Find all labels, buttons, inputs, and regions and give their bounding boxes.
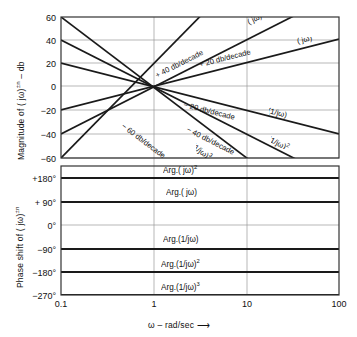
phase-label-arg-inv-jw1: Arg.(1/jω)	[163, 235, 259, 244]
phase-tick-0: 0°	[47, 221, 56, 231]
phase-axis-title: Phase shift of ( jω)±n	[14, 207, 25, 288]
curve-label-inv-jw1: (1/jω)	[269, 106, 323, 122]
x-tick-10: 10	[242, 299, 252, 309]
mag-tick-60: 60	[46, 13, 56, 23]
curve-label-inv-jw2: (1/jω)2	[271, 133, 324, 149]
phase-tick-180: +180°	[32, 174, 56, 184]
curve-label-jw1: ( jω)	[296, 37, 352, 46]
phase-tick-90: + 90°	[35, 198, 57, 208]
x-tick-0-1: 0.1	[55, 299, 68, 309]
mag-tick-0: 0	[51, 82, 56, 92]
mag-tick-n20: −20	[41, 106, 56, 116]
phase-label-arg-jw2: Arg.( jω)2	[163, 164, 253, 175]
curve-label-inv-jw3: (1/jω)3	[196, 140, 244, 158]
phase-label-arg-inv-jw2: Arg.(1/jω)2	[161, 258, 257, 269]
phase-label-arg-jw1: Arg.( jω)	[166, 188, 256, 197]
mag-tick-40: 40	[46, 36, 56, 46]
mag-tick-n60: −60	[41, 154, 56, 164]
phase-label-arg-inv-jw3: Arg.(1/jω)3	[161, 281, 257, 292]
x-axis-title: ω – rad/sec ⟶	[148, 320, 210, 330]
mag-tick-20: 20	[46, 59, 56, 69]
bode-asymptote-chart: 60 40 20 0 −20 −40 −60 +180° + 90° 0° −9…	[0, 0, 357, 337]
phase-tick-n90: −90°	[37, 245, 56, 255]
curve-label-jw2: ( jω)2	[245, 17, 303, 26]
phase-tick-n270: −270°	[32, 291, 56, 301]
x-tick-100: 100	[331, 299, 346, 309]
phase-tick-n180: −180°	[32, 268, 56, 278]
magnitude-axis-title: Magnitude of ( jω)±n – db	[15, 61, 26, 160]
mag-tick-n40: −40	[41, 130, 56, 140]
x-tick-1: 1	[151, 299, 156, 309]
